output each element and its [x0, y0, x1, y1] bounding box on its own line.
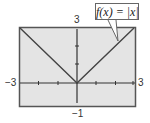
y-min-label: −1 [72, 109, 83, 119]
y-max-label: 3 [74, 15, 80, 25]
function-label-callout: f(x) = |x| [95, 3, 139, 20]
x-max-label: 3 [138, 78, 144, 88]
x-min-label: −3 [5, 78, 16, 88]
